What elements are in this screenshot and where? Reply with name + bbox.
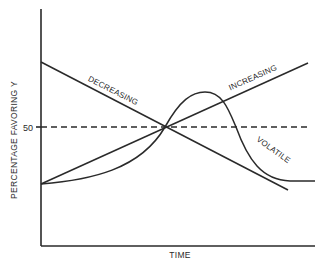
y-axis-title: PERCENTAGE FAVORING Y — [9, 81, 19, 199]
series-volatile — [41, 92, 315, 184]
y-tick-label-50: 50 — [23, 123, 33, 133]
x-axis-title: TIME — [169, 250, 191, 260]
label-decreasing: DECREASING — [87, 74, 140, 107]
line-chart-svg: DECREASING INCREASING VOLATILE 50 TIME P… — [0, 0, 325, 266]
label-volatile: VOLATILE — [255, 135, 292, 165]
series-increasing — [41, 63, 308, 184]
chart: DECREASING INCREASING VOLATILE 50 TIME P… — [0, 0, 325, 266]
